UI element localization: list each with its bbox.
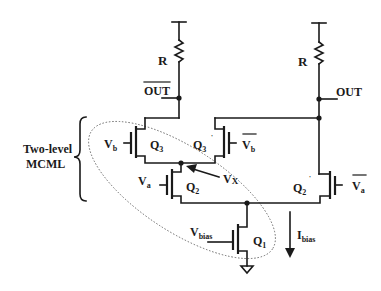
vx-arrow-line [193, 169, 219, 177]
label-vb-bar: Vb [242, 138, 256, 154]
mcml-group-ellipse [69, 96, 296, 284]
label-mcml: MCML [26, 157, 65, 171]
label-va: Va [138, 174, 151, 190]
circuit-diagram: R R OUT OUT Two-level MCML Vb Q3 Q3 ' Vb… [0, 0, 381, 291]
ground-icon [241, 266, 253, 273]
schematic-svg: R R OUT OUT Two-level MCML Vb Q3 Q3 ' Vb… [0, 0, 381, 291]
resistor-left-icon [175, 40, 183, 62]
transistor-q1-icon [208, 203, 247, 266]
label-vb: Vb [104, 137, 118, 153]
current-arrow-icon [285, 248, 295, 258]
label-two-level: Two-level [23, 142, 73, 156]
label-out: OUT [336, 85, 362, 99]
left-brace [74, 117, 86, 201]
q2-prime-mark: ' [309, 174, 311, 182]
node-out-bar [176, 95, 181, 100]
label-q1: Q1 [253, 234, 266, 250]
resistor-right-icon [315, 42, 323, 64]
label-q2: Q2 [186, 180, 199, 196]
label-vbias: Vbias [190, 225, 212, 241]
label-r-left: R [158, 53, 168, 68]
transistor-q3-prime-icon [181, 118, 236, 163]
node-out [316, 96, 321, 101]
label-out-bar: OUT [144, 84, 170, 98]
right-branch [215, 23, 337, 174]
label-q3-prime: Q3 [193, 138, 206, 154]
label-vx: VX [223, 172, 239, 186]
label-q3: Q3 [150, 138, 163, 154]
q3-prime-mark: ' [211, 133, 213, 141]
label-r-right: R [298, 54, 308, 69]
label-ibias: Ibias [297, 228, 315, 244]
vx-arrow-icon [186, 164, 197, 173]
left-branch [145, 22, 186, 118]
label-va-bar: Va [352, 179, 365, 195]
label-q2-prime: Q2 [293, 181, 306, 197]
